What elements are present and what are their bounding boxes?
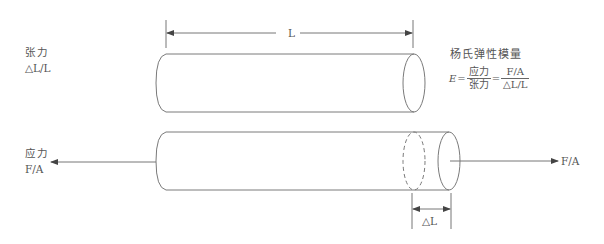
original-cylinder: [156, 54, 425, 112]
youngs-modulus-formula: E=应力张力=F/A△L/L: [449, 66, 529, 91]
formula-equals-2: =: [491, 73, 501, 84]
formula-fraction-symbols: F/A△L/L: [501, 66, 529, 91]
strain-label-expression: △L/L: [25, 62, 51, 75]
youngs-modulus-title: 杨氏弹性模量: [450, 48, 522, 61]
length-label: L: [284, 27, 299, 40]
fraction-symbols-numerator: F/A: [501, 66, 529, 79]
formula-fraction-words: 应力张力: [467, 66, 491, 91]
formula-equals: =: [456, 73, 466, 84]
diagram-canvas: [0, 0, 604, 244]
delta-length-label: △L: [422, 215, 437, 228]
stretched-cylinder: [156, 132, 460, 190]
stress-label-expression: F/A: [25, 163, 43, 176]
stress-label-name: 应力: [25, 147, 49, 160]
fraction-words-numerator: 应力: [467, 66, 491, 79]
fraction-words-denominator: 张力: [467, 79, 491, 91]
force-right-label: F/A: [561, 155, 579, 168]
strain-label-name: 张力: [25, 46, 49, 59]
fraction-symbols-denominator: △L/L: [501, 79, 529, 91]
